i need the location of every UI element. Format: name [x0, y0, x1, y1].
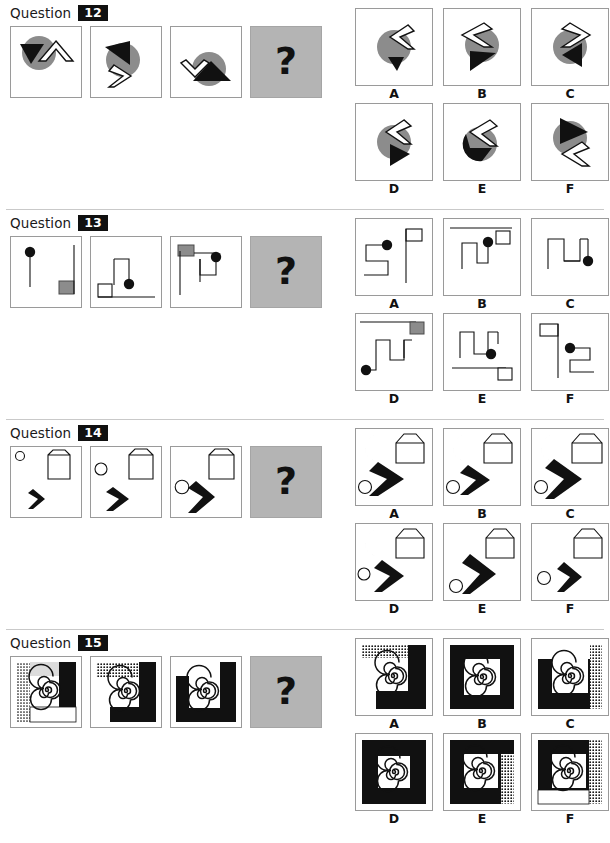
- option-figure[interactable]: [443, 313, 521, 391]
- option-figure[interactable]: [443, 733, 521, 811]
- stimulus-cell-3: [170, 656, 242, 728]
- stimulus-cell-missing: ?: [250, 26, 322, 98]
- option-e[interactable]: E: [440, 733, 524, 828]
- question-mark-glyph: ?: [275, 672, 297, 710]
- option-label: B: [477, 87, 487, 100]
- option-figure[interactable]: [531, 523, 609, 601]
- question-label: Question: [10, 215, 71, 231]
- option-label: C: [565, 87, 574, 100]
- option-f[interactable]: F: [528, 313, 610, 408]
- option-f[interactable]: F: [528, 523, 610, 618]
- option-b[interactable]: B: [440, 8, 524, 103]
- option-label: E: [478, 182, 487, 195]
- option-figure[interactable]: [443, 523, 521, 601]
- stimulus-cell-missing: ?: [250, 236, 322, 308]
- option-figure[interactable]: [355, 638, 433, 716]
- question-header: Question 13: [10, 214, 108, 232]
- stimulus-row: ?: [10, 26, 322, 98]
- option-label: A: [389, 297, 399, 310]
- option-figure[interactable]: [355, 313, 433, 391]
- option-label: F: [566, 392, 575, 405]
- option-f[interactable]: F: [528, 733, 610, 828]
- option-label: C: [565, 717, 574, 730]
- option-figure[interactable]: [531, 428, 609, 506]
- option-c[interactable]: C: [528, 218, 610, 313]
- stimulus-cell-3: [170, 446, 242, 518]
- option-a[interactable]: A: [352, 8, 436, 103]
- option-label: B: [477, 297, 487, 310]
- options-grid: A B C: [352, 428, 610, 618]
- option-d[interactable]: D: [352, 313, 436, 408]
- option-e[interactable]: E: [440, 313, 524, 408]
- question-number-badge: 12: [78, 5, 107, 21]
- question-label: Question: [10, 425, 71, 441]
- option-figure[interactable]: [531, 733, 609, 811]
- option-e[interactable]: E: [440, 523, 524, 618]
- option-figure[interactable]: [355, 218, 433, 296]
- option-figure[interactable]: [531, 638, 609, 716]
- option-b[interactable]: B: [440, 638, 524, 733]
- option-f[interactable]: F: [528, 103, 610, 198]
- option-figure[interactable]: [443, 8, 521, 86]
- stimulus-cell-1: [10, 446, 82, 518]
- option-label: D: [389, 812, 399, 825]
- question-number-badge: 13: [78, 215, 107, 231]
- option-a[interactable]: A: [352, 428, 436, 523]
- stimulus-cell-2: [90, 656, 162, 728]
- option-label: F: [566, 602, 575, 615]
- option-figure[interactable]: [443, 638, 521, 716]
- stimulus-cell-1: [10, 236, 82, 308]
- option-figure[interactable]: [355, 8, 433, 86]
- option-figure[interactable]: [443, 103, 521, 181]
- option-figure[interactable]: [531, 218, 609, 296]
- question-block-15: Question 15: [0, 630, 610, 840]
- option-d[interactable]: D: [352, 523, 436, 618]
- option-label: C: [565, 297, 574, 310]
- option-label: E: [478, 812, 487, 825]
- question-header: Question 12: [10, 4, 108, 22]
- stimulus-cell-1: [10, 656, 82, 728]
- option-label: B: [477, 717, 487, 730]
- question-header: Question 14: [10, 424, 108, 442]
- option-figure[interactable]: [355, 523, 433, 601]
- option-d[interactable]: D: [352, 103, 436, 198]
- option-figure[interactable]: [443, 218, 521, 296]
- option-label: C: [565, 507, 574, 520]
- option-d[interactable]: D: [352, 733, 436, 828]
- option-a[interactable]: A: [352, 638, 436, 733]
- option-c[interactable]: C: [528, 428, 610, 523]
- stimulus-row: ?: [10, 656, 322, 728]
- option-c[interactable]: C: [528, 638, 610, 733]
- option-label: F: [566, 182, 575, 195]
- option-figure[interactable]: [355, 733, 433, 811]
- question-mark-glyph: ?: [275, 252, 297, 290]
- option-b[interactable]: B: [440, 428, 524, 523]
- option-c[interactable]: C: [528, 8, 610, 103]
- option-b[interactable]: B: [440, 218, 524, 313]
- option-figure[interactable]: [531, 313, 609, 391]
- option-label: E: [478, 392, 487, 405]
- stimulus-cell-missing: ?: [250, 446, 322, 518]
- option-figure[interactable]: [355, 428, 433, 506]
- stimulus-cell-1: [10, 26, 82, 98]
- option-figure[interactable]: [443, 428, 521, 506]
- option-e[interactable]: E: [440, 103, 524, 198]
- options-grid: A B C: [352, 218, 610, 408]
- option-label: F: [566, 812, 575, 825]
- option-label: D: [389, 392, 399, 405]
- options-grid: A B C: [352, 638, 610, 828]
- stimulus-cell-3: [170, 26, 242, 98]
- option-a[interactable]: A: [352, 218, 436, 313]
- option-label: B: [477, 507, 487, 520]
- question-label: Question: [10, 635, 71, 651]
- option-figure[interactable]: [355, 103, 433, 181]
- stimulus-cell-2: [90, 446, 162, 518]
- option-label: A: [389, 717, 399, 730]
- stimulus-cell-2: [90, 236, 162, 308]
- question-header: Question 15: [10, 634, 108, 652]
- question-block-12: Question 12 ?: [0, 0, 610, 210]
- option-figure[interactable]: [531, 8, 609, 86]
- option-figure[interactable]: [531, 103, 609, 181]
- question-block-13: Question 13: [0, 210, 610, 420]
- question-number-badge: 15: [78, 635, 107, 651]
